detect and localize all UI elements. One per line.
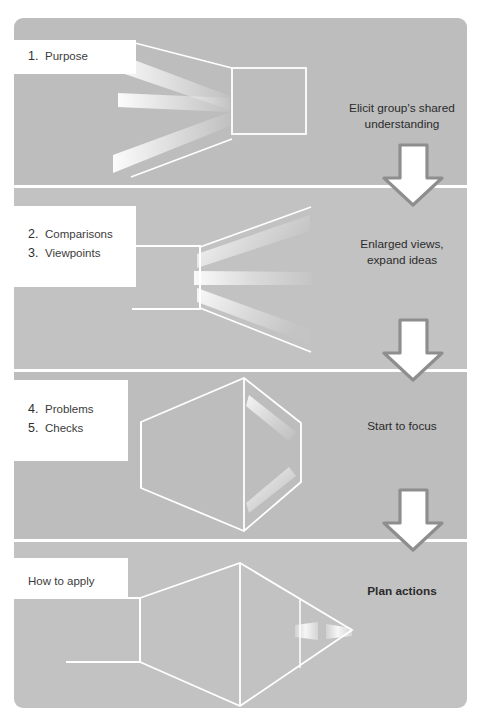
label-text: Comparisons <box>45 225 113 244</box>
panel-label-comparisons-viewpoints: 2. Comparisons 3. Viewpoints <box>14 206 136 287</box>
caption-problems: Start to focus <box>328 418 476 434</box>
panel-label-how-to-apply: How to apply <box>14 558 128 599</box>
label-row: 4. Problems <box>28 400 128 419</box>
label-text: Purpose <box>45 47 88 66</box>
label-number: 5. <box>28 419 45 438</box>
beam-middle <box>194 271 312 285</box>
label-text: Checks <box>45 419 83 438</box>
label-number: 2. <box>28 225 45 244</box>
panel-label-problems-checks: 4. Problems 5. Checks <box>14 380 128 461</box>
label-row: 2. Comparisons <box>28 225 136 244</box>
caption-how-to-apply: Plan actions <box>328 583 476 599</box>
label-row: 3. Viewpoints <box>28 244 136 263</box>
label-text: How to apply <box>28 572 94 591</box>
panel-separator-3 <box>14 539 467 542</box>
label-text: Viewpoints <box>45 244 100 263</box>
panel-label-purpose: 1. Purpose <box>14 40 136 74</box>
caption-comparisons: Enlarged views, expand ideas <box>328 236 476 268</box>
label-number: 4. <box>28 400 45 419</box>
label-row: 5. Checks <box>28 419 128 438</box>
caption-purpose: Elicit group's shared understanding <box>328 100 476 132</box>
label-number: 3. <box>28 244 45 263</box>
label-row: 1. Purpose <box>28 47 136 66</box>
label-number: 1. <box>28 47 45 66</box>
label-row: How to apply <box>28 572 128 591</box>
tip-beam-left <box>295 622 318 640</box>
panel-separator-2 <box>14 369 467 372</box>
label-text: Problems <box>45 400 94 419</box>
diagram-figure: 1. Purpose 2. Comparisons 3. Viewpoints … <box>0 0 481 725</box>
